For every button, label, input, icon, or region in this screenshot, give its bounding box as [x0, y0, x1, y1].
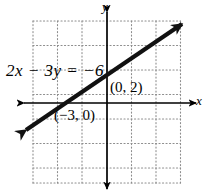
coordinate-plane-svg [0, 0, 208, 194]
axis-label-x: x [196, 94, 202, 107]
equation-label: 2x − 3y = −6 [6, 62, 104, 79]
point-label-y-intercept: (0, 2) [110, 80, 143, 95]
axis-label-y: y [102, 0, 108, 13]
graph-figure: 2x − 3y = −6 (0, 2) (−3, 0) y x [0, 0, 208, 194]
point-label-x-intercept: (−3, 0) [54, 108, 95, 123]
